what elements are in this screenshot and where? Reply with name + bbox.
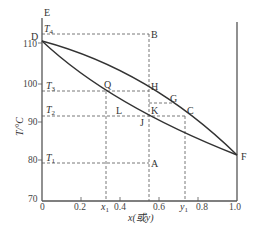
label-G: G xyxy=(170,93,177,104)
x-tick-label-06: 0.6 xyxy=(153,202,165,212)
y-axis-title: T/°C xyxy=(14,117,25,136)
label-C: C xyxy=(187,105,194,116)
label-E: E xyxy=(44,7,50,18)
y-tick-label-100: 100 xyxy=(23,79,38,89)
label-T2: T2 xyxy=(46,104,56,117)
label-A: A xyxy=(151,158,159,169)
dew-point-curve xyxy=(42,41,237,155)
label-J: J xyxy=(140,117,144,128)
x-tick-label-04: 0.4 xyxy=(114,202,126,212)
y-tick-label-80: 80 xyxy=(28,155,38,165)
x-tick-label-0: 0 xyxy=(40,202,45,212)
x-tick-label-08: 0.8 xyxy=(196,202,208,212)
x-axis-title: x(或y) xyxy=(127,212,154,224)
label-L: L xyxy=(116,105,122,116)
bubble-point-curve xyxy=(42,41,237,155)
label-K: K xyxy=(151,105,159,116)
y-tick-label-70: 70 xyxy=(28,194,38,204)
label-H: H xyxy=(151,81,158,92)
label-F: F xyxy=(241,151,247,162)
label-x1: x1 xyxy=(100,201,109,214)
y-tick-label-90: 90 xyxy=(28,117,38,127)
y-tick-label-110: 110 xyxy=(23,39,37,49)
x-tick-label-02: 0.2 xyxy=(74,202,86,212)
label-T4: T4 xyxy=(44,23,54,36)
label-Q: Q xyxy=(104,79,112,90)
x-tick-label-10: 1.0 xyxy=(229,202,241,212)
phase-diagram: E D B H G Q L K J C A F T4 T3 T2 T1 110 … xyxy=(0,0,258,235)
label-y1: y1 xyxy=(179,201,188,214)
label-B: B xyxy=(151,29,158,40)
